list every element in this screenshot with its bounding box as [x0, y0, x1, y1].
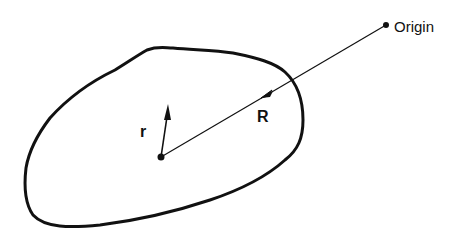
diagram-canvas — [0, 0, 473, 234]
r-vector-label: r — [140, 124, 146, 140]
R-vector-line — [161, 25, 386, 157]
body-center-point — [158, 154, 165, 161]
R-vector-label: R — [257, 109, 269, 125]
origin-label: Origin — [394, 19, 434, 34]
r-arrowhead-icon — [164, 104, 171, 120]
origin-point — [383, 22, 389, 28]
